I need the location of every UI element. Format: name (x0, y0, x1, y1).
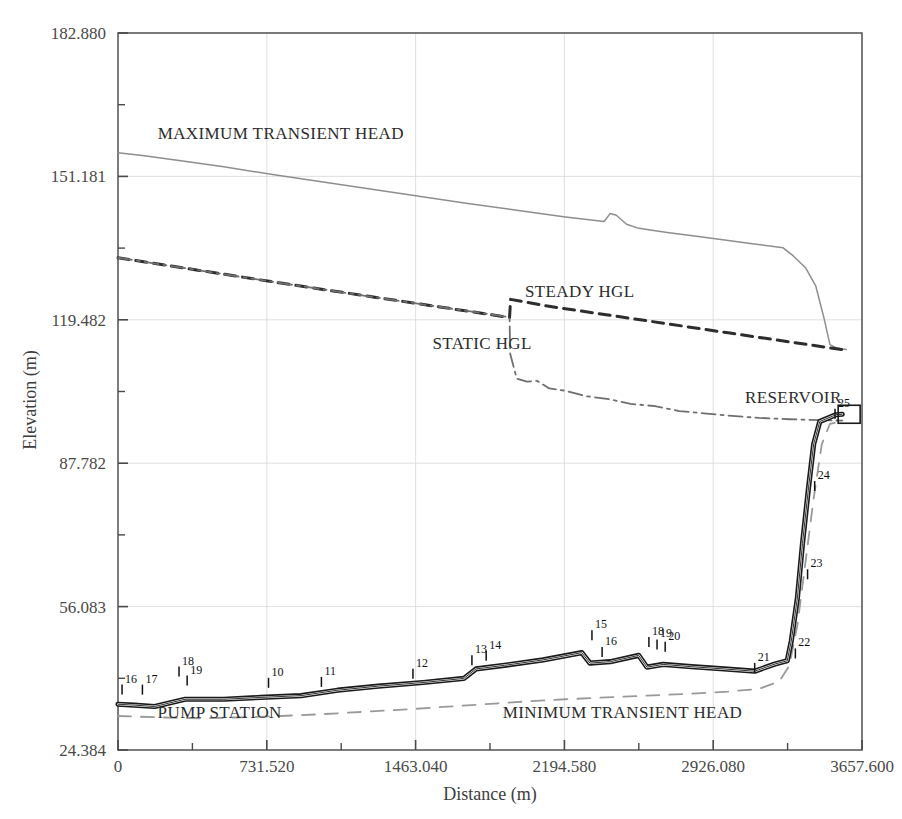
node-label: 13 (475, 642, 487, 656)
chart-annotation: PUMP STATION (158, 703, 282, 722)
chart-annotation: STATIC HGL (432, 334, 531, 353)
y-tick-label: 24.384 (59, 741, 106, 760)
y-tick-labels: 24.38456.08387.782119.482151.181182.880 (51, 24, 107, 760)
series-line-inner (118, 414, 842, 706)
x-tick-label: 1463.040 (384, 757, 448, 776)
pipeline-profile-chart: 24.38456.08387.782119.482151.181182.880 … (0, 0, 902, 819)
series-line (118, 422, 842, 719)
y-axis-title: Elevation (m) (20, 350, 41, 449)
chart-annotation: STEADY HGL (525, 282, 635, 301)
chart-figure: 24.38456.08387.782119.482151.181182.880 … (0, 0, 902, 819)
node-label: 24 (818, 468, 830, 482)
node-label: 14 (489, 638, 501, 652)
node-label: 22 (798, 635, 810, 649)
chart-annotation: RESERVOIR (745, 388, 842, 407)
node-label: 16 (605, 634, 617, 648)
node-label: 20 (668, 629, 680, 643)
node-label: 23 (811, 556, 823, 570)
node-label: 12 (416, 656, 428, 670)
node-label: 21 (758, 650, 770, 664)
node-label: 10 (272, 665, 284, 679)
series-line (118, 414, 842, 706)
node-label: 15 (595, 617, 607, 631)
y-tick-label: 151.181 (51, 167, 106, 186)
y-tick-label: 119.482 (51, 311, 106, 330)
x-tick-labels: 0731.5201463.0402194.5802926.0803657.600 (114, 757, 894, 776)
x-tick-label: 2194.580 (533, 757, 597, 776)
x-tick-label: 3657.600 (830, 757, 894, 776)
data-series (118, 153, 860, 718)
series-line-core (118, 414, 842, 706)
node-label: 17 (145, 672, 157, 686)
node-label: 19 (190, 663, 202, 677)
y-tick-label: 182.880 (51, 24, 106, 43)
x-tick-label: 0 (114, 757, 123, 776)
y-tick-label: 87.782 (59, 454, 106, 473)
chart-annotation: MINIMUM TRANSIENT HEAD (503, 703, 743, 722)
y-tick-label: 56.083 (59, 598, 106, 617)
x-axis-title: Distance (m) (443, 784, 536, 805)
x-tick-label: 2926.080 (681, 757, 745, 776)
chart-annotation: MAXIMUM TRANSIENT HEAD (158, 124, 404, 143)
node-label: 16 (125, 672, 137, 686)
series-annotations: MAXIMUM TRANSIENT HEADSTEADY HGLSTATIC H… (158, 124, 842, 722)
x-tick-label: 731.520 (239, 757, 294, 776)
node-markers: 16171819101112131415161819202122232425 (122, 396, 850, 695)
node-label: 11 (324, 664, 336, 678)
